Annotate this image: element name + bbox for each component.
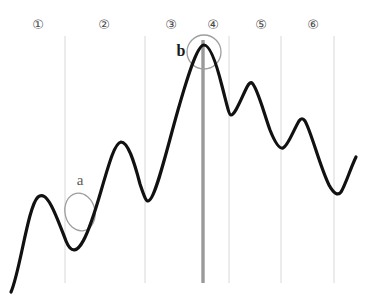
tick-marker-6: ⑥ xyxy=(307,18,319,31)
annotation-label-b: b xyxy=(177,43,186,59)
waveform-figure: •••• ••••• •••••• ••• •••••• ••••• ①②③④⑤… xyxy=(0,0,365,302)
tick-marker-1: ① xyxy=(32,18,44,31)
annotation-label-a: a xyxy=(77,173,84,188)
tick-marker-3: ③ xyxy=(165,18,177,31)
tick-marker-2: ② xyxy=(98,18,110,31)
tick-marker-5: ⑤ xyxy=(255,18,267,31)
waveform-curve xyxy=(11,45,356,292)
gridlines-group xyxy=(65,36,334,283)
tick-marker-4: ④ xyxy=(207,18,219,31)
annotation-shapes-group xyxy=(61,35,221,234)
